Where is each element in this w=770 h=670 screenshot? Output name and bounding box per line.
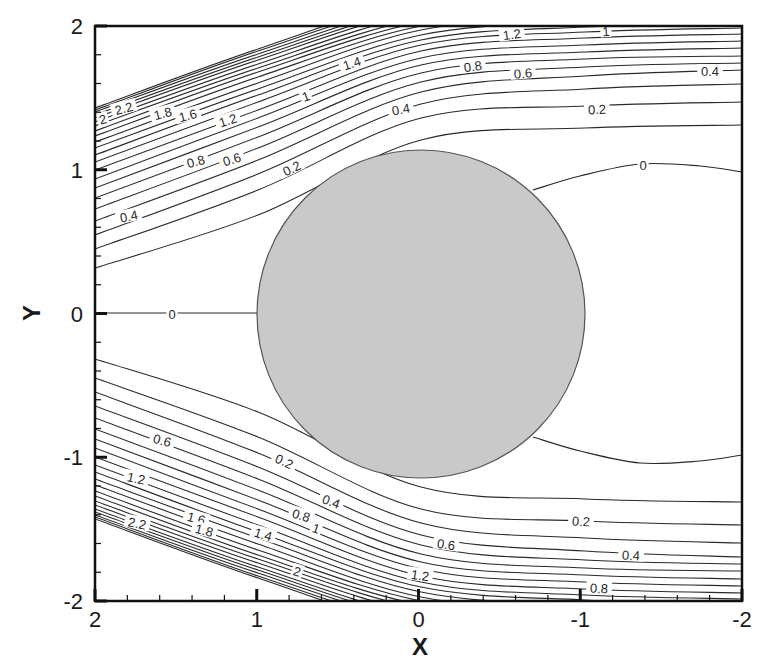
svg-text:0.4: 0.4	[701, 64, 719, 79]
contour-label: 1.2	[498, 25, 525, 43]
contour-label: 0.2	[584, 101, 610, 117]
contour-label: 0.4	[115, 207, 143, 227]
contour-line-zero-wake-lower	[533, 437, 742, 464]
svg-text:0.6: 0.6	[513, 65, 532, 82]
contour-label: 0.4	[697, 64, 723, 79]
contour-label: 1.8	[190, 520, 219, 541]
svg-text:0.4: 0.4	[391, 101, 411, 119]
contour-label: 1	[298, 88, 314, 106]
y-axis-title: Y	[18, 305, 45, 321]
y-tick-label: 0	[71, 302, 83, 327]
svg-text:0.4: 0.4	[118, 207, 139, 225]
contour-label: 0.4	[618, 547, 644, 563]
svg-text:0.8: 0.8	[590, 581, 609, 597]
contour-label: 0.2	[568, 513, 594, 529]
contour-label: 0.4	[387, 100, 415, 119]
svg-text:0.6: 0.6	[151, 431, 172, 450]
svg-text:0.4: 0.4	[622, 548, 641, 564]
contour-label: 0.6	[148, 430, 177, 451]
x-tick-label: -2	[732, 607, 752, 632]
contour-label: 1.6	[174, 105, 203, 126]
y-tick-label: -1	[63, 445, 83, 470]
contour-label: 0	[166, 307, 177, 322]
contour-label: 0.8	[459, 57, 486, 75]
svg-text:0.6: 0.6	[436, 536, 456, 553]
contour-label: 0.8	[586, 580, 612, 596]
contour-label: 1.8	[149, 103, 178, 124]
contour-label: 1.2	[213, 109, 242, 131]
svg-text:0.2: 0.2	[588, 102, 607, 118]
svg-text:0: 0	[639, 158, 646, 173]
contour-line-upper	[95, 0, 742, 110]
x-tick-label: 0	[412, 607, 424, 632]
contour-label: 0.8	[287, 505, 316, 527]
contour-label: 0	[637, 158, 648, 173]
x-tick-label: 1	[251, 607, 263, 632]
cylinder-obstacle	[257, 150, 585, 478]
svg-text:1.2: 1.2	[502, 26, 522, 43]
x-tick-label: -1	[570, 607, 590, 632]
svg-text:0.2: 0.2	[572, 514, 591, 530]
contour-label: 1.2	[122, 469, 150, 489]
y-tick-label: -2	[63, 589, 83, 614]
contour-label: 0.6	[510, 65, 537, 82]
contour-label: 0.6	[432, 535, 459, 553]
contour-label: 0.2	[277, 156, 307, 180]
svg-text:0: 0	[168, 307, 175, 322]
contour-label: 1.2	[406, 566, 433, 584]
svg-text:1.6: 1.6	[177, 106, 198, 125]
x-axis-title: X	[412, 633, 428, 660]
y-tick-label: 2	[71, 14, 83, 39]
svg-text:2.2: 2.2	[113, 99, 134, 118]
svg-text:1.2: 1.2	[410, 567, 430, 584]
x-tick-label: 2	[89, 607, 101, 632]
svg-text:0.8: 0.8	[463, 58, 483, 75]
y-tick-label: 1	[71, 158, 83, 183]
contour-label: 0.6	[217, 149, 246, 171]
contour-label: 0.4	[317, 490, 346, 513]
contour-line-upper	[95, 0, 742, 108]
contour-chart-svg: 22.21.81.61.21.410.80.60.40.20.40.81.210…	[0, 0, 770, 670]
contour-label: 1.4	[337, 52, 366, 74]
